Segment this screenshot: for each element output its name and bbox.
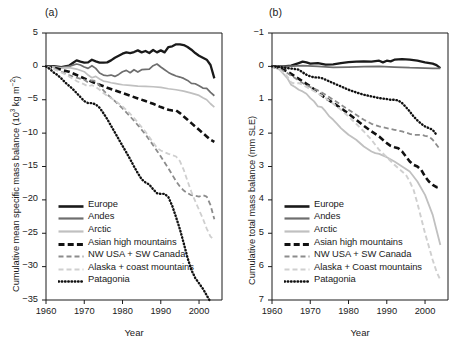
legend-item: Patagonia <box>58 273 194 286</box>
legend-label: Arctic <box>88 223 111 234</box>
y-axis-tick-label: 6 <box>232 260 264 270</box>
legend-label: Arctic <box>314 223 337 234</box>
panel-b-x-axis-title: Year <box>272 327 448 338</box>
legend-label: Europe <box>88 198 118 209</box>
y-axis-tick-label: 1 <box>232 93 264 103</box>
y-axis-tick-label: −20 <box>6 193 38 203</box>
y-axis-tick-label: −1 <box>232 27 264 37</box>
legend-swatch <box>284 248 310 259</box>
panel-a: (a) Cumulative mean specific mass balanc… <box>0 0 236 349</box>
y-axis-tick-label: 4 <box>232 193 264 203</box>
series-line <box>272 66 437 134</box>
legend-swatch <box>284 210 310 221</box>
legend-swatch <box>284 223 310 234</box>
legend-swatch <box>58 248 84 259</box>
panel-a-x-axis-title: Year <box>46 327 222 338</box>
panel-a-legend: EuropeAndesArcticAsian high mountainsNW … <box>58 197 194 285</box>
legend-swatch <box>58 210 84 221</box>
legend-label: NW USA + SW Canada <box>314 248 411 259</box>
x-axis-tick-label: 1960 <box>252 306 292 316</box>
legend-label: NW USA + SW Canada <box>88 248 185 259</box>
panel-b: (b) Cumulative total mass balance (mm SL… <box>236 0 472 349</box>
legend-item: Andes <box>58 210 194 223</box>
legend-label: Europe <box>314 198 344 209</box>
y-axis-tick-label: −25 <box>6 227 38 237</box>
y-axis-tick-label: 5 <box>232 227 264 237</box>
legend-label: Andes <box>88 210 114 221</box>
legend-item: Patagonia <box>284 273 422 286</box>
y-axis-tick-label: −5 <box>6 93 38 103</box>
legend-item: Asian high mountains <box>58 235 194 248</box>
figure-root: (a) Cumulative mean specific mass balanc… <box>0 0 472 349</box>
x-axis-tick-label: 2000 <box>405 306 445 316</box>
x-axis-tick-label: 1970 <box>64 306 104 316</box>
legend-swatch <box>58 261 84 272</box>
y-axis-tick-label: −35 <box>6 294 38 304</box>
x-axis-tick-label: 1990 <box>141 306 181 316</box>
y-axis-tick-label: −15 <box>6 160 38 170</box>
x-axis-tick-label: 1990 <box>367 306 407 316</box>
legend-label: Alaska + coast mountains <box>88 261 194 272</box>
y-axis-tick-label: 7 <box>232 294 264 304</box>
legend-swatch <box>58 198 84 209</box>
y-axis-tick-label: 5 <box>6 27 38 37</box>
legend-item: Alaska + Coast mountains <box>284 260 422 273</box>
series-line <box>272 66 440 149</box>
legend-label: Alaska + Coast mountains <box>314 261 422 272</box>
legend-item: Andes <box>284 210 422 223</box>
legend-item: Arctic <box>284 222 422 235</box>
legend-item: Arctic <box>58 222 194 235</box>
series-line <box>272 66 440 187</box>
legend-label: Patagonia <box>88 273 130 284</box>
legend-label: Asian high mountains <box>314 236 403 247</box>
y-axis-tick-label: 0 <box>6 60 38 70</box>
legend-swatch <box>284 273 310 284</box>
y-axis-tick-label: −10 <box>6 127 38 137</box>
x-axis-tick-label: 1960 <box>26 306 66 316</box>
y-axis-tick-label: 2 <box>232 127 264 137</box>
legend-swatch <box>58 236 84 247</box>
legend-swatch <box>284 198 310 209</box>
panel-b-plot <box>236 0 472 349</box>
legend-item: Alaska + coast mountains <box>58 260 194 273</box>
y-axis-tick-label: 3 <box>232 160 264 170</box>
legend-swatch <box>58 273 84 284</box>
panel-b-legend: EuropeAndesArcticAsian high mountainsNW … <box>284 197 422 285</box>
y-axis-tick-label: −30 <box>6 260 38 270</box>
legend-label: Asian high mountains <box>88 236 177 247</box>
legend-label: Patagonia <box>314 273 356 284</box>
legend-item: Europe <box>58 197 194 210</box>
x-axis-tick-label: 1980 <box>103 306 143 316</box>
x-axis-tick-label: 2000 <box>179 306 219 316</box>
legend-swatch <box>284 261 310 272</box>
legend-item: Asian high mountains <box>284 235 422 248</box>
x-axis-tick-label: 1970 <box>290 306 330 316</box>
legend-swatch <box>58 223 84 234</box>
series-line <box>272 66 440 69</box>
legend-item: Europe <box>284 197 422 210</box>
legend-swatch <box>284 236 310 247</box>
legend-item: NW USA + SW Canada <box>58 247 194 260</box>
x-axis-tick-label: 1980 <box>329 306 369 316</box>
y-axis-tick-label: 0 <box>232 60 264 70</box>
legend-item: NW USA + SW Canada <box>284 247 422 260</box>
legend-label: Andes <box>314 210 340 221</box>
